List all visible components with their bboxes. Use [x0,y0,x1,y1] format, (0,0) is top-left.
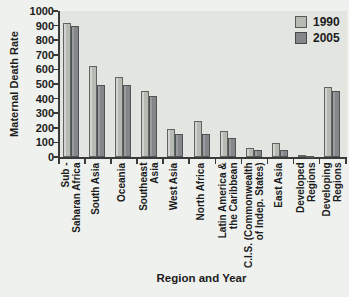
x-category-label: Southeast Asia [139,163,160,269]
legend-swatch-1990 [295,16,307,28]
y-tick-mark [53,10,58,12]
y-tick-mark [53,156,58,158]
y-tick-label: 600 [16,63,54,75]
bar-1990-4 [167,129,175,157]
y-tick-label: 200 [16,122,54,134]
bar-2005-1 [97,85,105,157]
bar-1990-2 [115,77,123,157]
y-tick-mark [53,142,58,144]
y-tick-label: 100 [16,136,54,148]
x-category-label: Oceania [117,163,129,269]
y-tick-label: 400 [16,93,54,105]
x-category-label: East Asia [274,163,286,269]
y-tick-label: 800 [16,34,54,46]
bar-2005-2 [123,85,131,157]
bar-1990-3 [141,91,149,157]
y-tick-mark [53,83,58,85]
x-tick-mark [162,159,164,164]
y-tick-label: 500 [16,78,54,90]
bar-1990-5 [194,121,202,158]
legend-entry-2005: 2005 [295,32,340,44]
bar-2005-10 [332,91,340,157]
x-axis-title: Region and Year [58,272,345,284]
x-category-label: C.I.S. (Commonwealth of Indep. States) [243,163,264,269]
x-category-label: Developed Regions [295,163,316,269]
legend-entry-1990: 1990 [295,16,340,28]
x-tick-mark [267,159,269,164]
bar-1990-9 [298,155,306,157]
y-tick-mark [53,39,58,41]
x-category-label: Sub - Saharan Africa [61,163,82,269]
x-tick-mark [110,159,112,164]
x-tick-mark [345,159,347,164]
bar-2005-8 [280,150,288,157]
bar-2005-5 [202,134,210,157]
bar-1990-7 [246,148,254,157]
x-category-label: West Asia [169,163,181,269]
y-tick-label: 900 [16,20,54,32]
bar-2005-7 [254,150,262,157]
x-category-label: Latin America & the Caribbean [217,163,238,269]
bar-1990-0 [63,23,71,157]
y-tick-mark [53,69,58,71]
bar-2005-6 [228,138,236,157]
y-tick-mark [53,98,58,100]
x-category-label: Developing Regions [321,163,342,269]
legend: 1990 2005 [295,16,340,48]
bar-2005-3 [149,96,157,157]
bar-1990-6 [220,131,228,157]
y-tick-mark [53,54,58,56]
y-tick-mark [53,112,58,114]
y-tick-label: 300 [16,107,54,119]
maternal-death-rate-chart: Maternal Death Rate 1990 2005 Region and… [0,0,349,297]
x-category-label: South Asia [91,163,103,269]
y-tick-label: 700 [16,49,54,61]
bar-2005-0 [71,26,79,157]
y-tick-mark [53,127,58,129]
y-tick-label: 0 [16,151,54,163]
y-tick-mark [53,25,58,27]
x-tick-mark [188,159,190,164]
x-tick-mark [84,159,86,164]
bar-2005-9 [306,156,314,158]
legend-label-1990: 1990 [313,16,340,28]
legend-label-2005: 2005 [313,32,340,44]
bar-2005-4 [175,134,183,157]
x-category-label: North Africa [196,163,208,269]
bar-1990-10 [324,87,332,157]
y-tick-label: 1000 [16,5,54,17]
bar-1990-1 [89,66,97,157]
bar-1990-8 [272,143,280,157]
legend-swatch-2005 [295,32,307,44]
